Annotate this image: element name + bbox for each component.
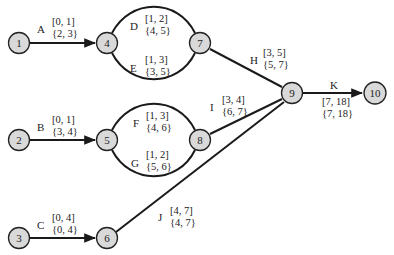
activity-c-early: [0, 4] <box>52 212 75 223</box>
activity-g-late: {5, 6} <box>146 161 172 172</box>
activity-c-label: C <box>37 219 44 231</box>
activity-f-early: [1, 3] <box>146 110 169 121</box>
network-diagram: 1 2 3 4 5 6 7 8 9 10 A [0, 1] {2, 3} B [… <box>0 0 394 255</box>
activity-b-late: {3, 4} <box>52 126 78 137</box>
node-9: 9 <box>282 83 303 104</box>
activity-k-early: [7, 18] <box>322 96 350 107</box>
activity-f-label: F <box>133 117 139 129</box>
activity-b-label: B <box>37 121 44 133</box>
activity-h-early: [3, 5] <box>263 47 286 58</box>
svg-text:10: 10 <box>370 87 382 99</box>
activity-e-label: E <box>130 62 137 74</box>
activity-e-early: [1, 3] <box>145 54 168 65</box>
node-5: 5 <box>97 130 118 151</box>
activity-i-late: {6, 7} <box>222 106 248 117</box>
activity-a-label: A <box>37 23 45 35</box>
activity-d-early: [1, 2] <box>145 13 168 24</box>
node-4: 4 <box>97 33 118 54</box>
activity-a-late: {2, 3} <box>52 28 78 39</box>
node-3: 3 <box>9 228 30 249</box>
activity-e-late: {3, 5} <box>145 66 171 77</box>
activity-k-late: {7, 18} <box>322 108 353 119</box>
svg-text:6: 6 <box>104 232 110 244</box>
activity-a-early: [0, 1] <box>52 16 75 27</box>
svg-text:2: 2 <box>16 134 22 146</box>
svg-text:8: 8 <box>197 134 203 146</box>
node-7: 7 <box>190 33 211 54</box>
svg-text:1: 1 <box>16 37 22 49</box>
activity-g-label: G <box>131 157 139 169</box>
edge-j <box>116 102 284 232</box>
svg-text:9: 9 <box>289 87 295 99</box>
activity-j-late: {4, 7} <box>170 217 196 228</box>
activity-i-early: [3, 4] <box>222 94 245 105</box>
activity-k-label: K <box>330 79 338 91</box>
activity-g-early: [1, 2] <box>146 149 169 160</box>
activity-b-early: [0, 1] <box>52 114 75 125</box>
svg-text:5: 5 <box>104 134 110 146</box>
svg-text:7: 7 <box>197 37 203 49</box>
node-2: 2 <box>9 130 30 151</box>
activity-d-label: D <box>130 20 138 32</box>
activity-i-label: I <box>210 101 214 113</box>
activity-h-label: H <box>250 54 258 66</box>
svg-text:3: 3 <box>16 232 22 244</box>
activity-f-late: {4, 6} <box>146 122 172 133</box>
activity-h-late: {5, 7} <box>263 59 289 70</box>
node-10: 10 <box>364 82 386 104</box>
node-6: 6 <box>97 228 118 249</box>
activity-j-early: [4, 7] <box>170 205 193 216</box>
activity-c-late: {0, 4} <box>52 224 78 235</box>
activity-d-late: {4, 5} <box>145 25 171 36</box>
node-8: 8 <box>190 130 211 151</box>
node-1: 1 <box>9 33 30 54</box>
activity-j-label: J <box>158 211 163 223</box>
svg-text:4: 4 <box>104 37 110 49</box>
